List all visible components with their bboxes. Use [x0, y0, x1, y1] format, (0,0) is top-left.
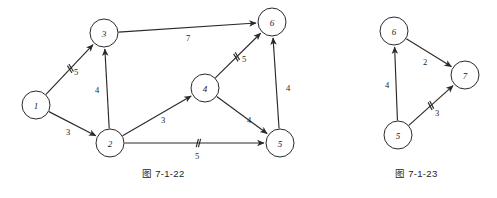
edge-4-to-6: [215, 33, 260, 78]
node-7: 7: [451, 61, 479, 89]
node-6: 6: [258, 8, 286, 36]
node-3: 3: [90, 19, 118, 47]
edge-weight-4-6: 5: [242, 54, 246, 64]
edge-weight-2-3: 4: [95, 85, 100, 95]
figure-caption-left: 图 7-1-22: [142, 166, 185, 180]
edge-weight-2-5: 5: [195, 151, 199, 161]
node-label-2: 2: [108, 139, 113, 149]
node-6: 6: [380, 17, 408, 45]
edge-5-to-6: [395, 47, 398, 121]
node-4: 4: [191, 74, 219, 102]
node-label-5: 5: [396, 131, 401, 141]
node-layer: 123456675: [22, 8, 479, 157]
node-5: 5: [384, 121, 412, 149]
node-label-3: 3: [101, 29, 107, 39]
edge-weight-5-6: 4: [385, 80, 390, 90]
edge-5-to-7: [409, 86, 453, 126]
edge-4-to-5: [217, 97, 267, 134]
edge-weight-2-4: 3: [161, 115, 165, 125]
figure-canvas: 123456675 534735544243 图 7-1-22 图 7-1-23: [0, 0, 497, 198]
edge-weight-4-5: 4: [247, 115, 252, 125]
edge-tick-1-3: [67, 66, 72, 73]
node-5: 5: [266, 129, 294, 157]
edge-1-to-2: [49, 112, 96, 136]
edge-3-to-6: [118, 23, 256, 32]
edge-weight-5-7: 3: [435, 108, 439, 118]
edge-6-to-7: [406, 39, 451, 67]
node-label-7: 7: [463, 71, 468, 81]
edge-weight-1-2: 3: [66, 127, 70, 137]
edge-weight-5-6: 4: [286, 83, 291, 93]
edge-2-to-4: [123, 96, 192, 136]
edge-weight-3-6: 7: [186, 33, 190, 43]
node-2: 2: [96, 129, 124, 157]
edge-2-to-3: [105, 49, 109, 129]
node-label-1: 1: [34, 101, 39, 111]
edge-5-to-6: [273, 38, 279, 129]
node-label-5: 5: [278, 139, 283, 149]
edge-tick-1-3: [69, 64, 74, 71]
figure-caption-right: 图 7-1-23: [395, 166, 438, 180]
edge-weight-1-3: 5: [74, 67, 78, 77]
node-label-6: 6: [392, 27, 397, 37]
node-label-4: 4: [203, 84, 208, 94]
edge-weight-6-7: 2: [423, 57, 427, 67]
node-1: 1: [22, 91, 50, 119]
node-label-6: 6: [270, 18, 275, 28]
